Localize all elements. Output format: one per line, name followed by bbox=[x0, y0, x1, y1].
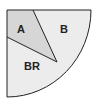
sector-diagram: A B BR bbox=[0, 0, 95, 99]
region-b-label: B bbox=[60, 23, 68, 35]
region-a-label: A bbox=[17, 23, 25, 35]
region-br-label: BR bbox=[24, 60, 40, 72]
